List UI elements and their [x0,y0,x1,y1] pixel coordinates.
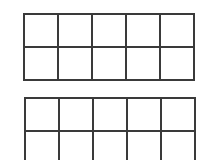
ten-frame-top [23,13,195,81]
frame-cell [26,99,60,132]
frame-cell [127,15,161,48]
frame-cell [128,99,162,132]
ten-frame-bottom [24,97,196,160]
frame-cell [25,48,59,81]
frame-cell [93,15,127,48]
frame-cell [93,48,127,81]
frame-cell [162,132,196,160]
frame-cell [162,99,196,132]
frame-cell [161,15,195,48]
frame-cell [26,132,60,160]
frame-cell [94,99,128,132]
frame-cell [60,99,94,132]
frame-cell [161,48,195,81]
frame-cell [59,15,93,48]
frame-cell [127,48,161,81]
frame-cell [128,132,162,160]
frame-cell [25,15,59,48]
frame-cell [60,132,94,160]
frame-cell [59,48,93,81]
frame-cell [94,132,128,160]
